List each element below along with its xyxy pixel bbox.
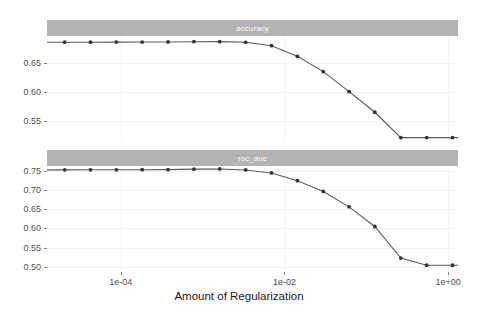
y-tick-label: 0.60: [8, 87, 41, 97]
data-point: [218, 40, 222, 44]
data-point: [321, 70, 325, 74]
y-tick-label: 0.50: [8, 262, 41, 272]
data-point: [63, 40, 67, 44]
data-point: [296, 179, 300, 183]
data-point: [373, 110, 377, 114]
x-axis-title: Amount of Regularization: [0, 290, 478, 302]
y-tick-mark: [44, 92, 47, 93]
data-point: [89, 168, 93, 172]
y-tick-label: 0.75: [8, 166, 41, 176]
y-tick-label: 0.65: [8, 204, 41, 214]
data-point: [114, 40, 118, 44]
data-point: [373, 225, 377, 229]
data-point: [192, 167, 196, 171]
data-point: [451, 263, 455, 267]
data-point: [270, 171, 274, 175]
y-tick-mark: [44, 248, 47, 249]
series-roc_auc: [47, 166, 458, 272]
data-point: [270, 44, 274, 48]
data-point: [140, 40, 144, 44]
series-line: [47, 42, 458, 138]
data-point: [114, 168, 118, 172]
x-tick-label: 1e+00: [436, 277, 461, 287]
data-point: [89, 40, 93, 44]
plot-area-accuracy: [47, 36, 458, 142]
y-tick-mark: [44, 209, 47, 210]
data-point: [192, 40, 196, 44]
series-line: [47, 169, 458, 265]
x-tick-mark: [121, 272, 122, 275]
data-point: [347, 205, 351, 209]
data-point: [166, 168, 170, 172]
series-accuracy: [47, 36, 458, 142]
x-tick-label: 1e-04: [109, 277, 132, 287]
strip-header-roc-auc: roc_auc: [47, 150, 458, 166]
strip-label-accuracy: accuracy: [236, 24, 269, 33]
data-point: [399, 136, 403, 140]
y-tick-mark: [44, 63, 47, 64]
y-tick-label: 0.65: [8, 58, 41, 68]
panel-roc-auc: roc_auc: [47, 150, 458, 272]
y-tick-label: 0.55: [8, 116, 41, 126]
y-tick-label: 0.55: [8, 243, 41, 253]
data-point: [321, 190, 325, 194]
data-point: [63, 168, 67, 172]
data-point: [218, 167, 222, 171]
strip-label-roc-auc: roc_auc: [238, 154, 267, 163]
data-point: [140, 168, 144, 172]
y-tick-label: 0.60: [8, 223, 41, 233]
facet-chart-figure: accuracy roc_auc 0.650.600.550.750.700.6…: [0, 0, 478, 312]
plot-area-roc-auc: [47, 166, 458, 272]
data-point: [451, 136, 455, 140]
data-point: [425, 136, 429, 140]
x-tick-label: 1e-02: [273, 277, 296, 287]
data-point: [244, 40, 248, 44]
x-tick-mark: [448, 272, 449, 275]
x-tick-mark: [284, 272, 285, 275]
y-tick-mark: [44, 190, 47, 191]
data-point: [347, 90, 351, 94]
y-tick-mark: [44, 171, 47, 172]
strip-header-accuracy: accuracy: [47, 20, 458, 36]
data-point: [296, 54, 300, 58]
y-tick-label: 0.70: [8, 185, 41, 195]
data-point: [244, 168, 248, 172]
y-tick-mark: [44, 267, 47, 268]
y-tick-mark: [44, 228, 47, 229]
data-point: [425, 263, 429, 267]
data-point: [399, 256, 403, 260]
y-tick-mark: [44, 121, 47, 122]
panel-accuracy: accuracy: [47, 20, 458, 142]
data-point: [166, 40, 170, 44]
